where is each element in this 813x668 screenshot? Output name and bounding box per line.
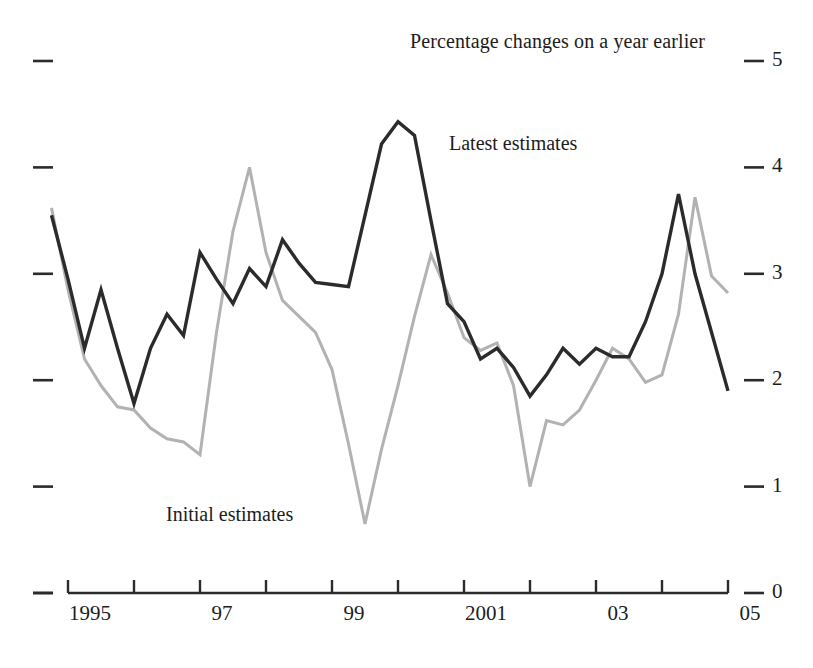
series-label: Latest estimates [449, 132, 577, 155]
left-axis-ticks [33, 61, 53, 593]
y-axis-tick-label: 5 [772, 47, 783, 72]
x-axis-tick-label: 99 [344, 601, 365, 626]
x-axis-tick-label: 97 [212, 601, 233, 626]
series-label: Initial estimates [166, 503, 293, 526]
data-series-group [52, 122, 729, 524]
chart-plot-area [0, 0, 813, 668]
y-axis-tick-label: 1 [772, 473, 783, 498]
y-axis-tick-label: 3 [772, 260, 783, 285]
chart-container: Percentage changes on a year earlier 543… [0, 0, 813, 668]
x-axis-tick-label: 1995 [69, 601, 111, 626]
y-axis-tick-label: 4 [772, 153, 783, 178]
y-axis-tick-label: 2 [772, 366, 783, 391]
x-axis-tick-label: 03 [608, 601, 629, 626]
chart-title: Percentage changes on a year earlier [410, 30, 705, 53]
x-axis-tick-label: 05 [740, 601, 761, 626]
x-axis-tick-label: 2001 [465, 601, 507, 626]
y-axis-tick-label: 0 [772, 579, 783, 604]
x-axis [33, 580, 728, 593]
right-axis-ticks [744, 61, 764, 593]
